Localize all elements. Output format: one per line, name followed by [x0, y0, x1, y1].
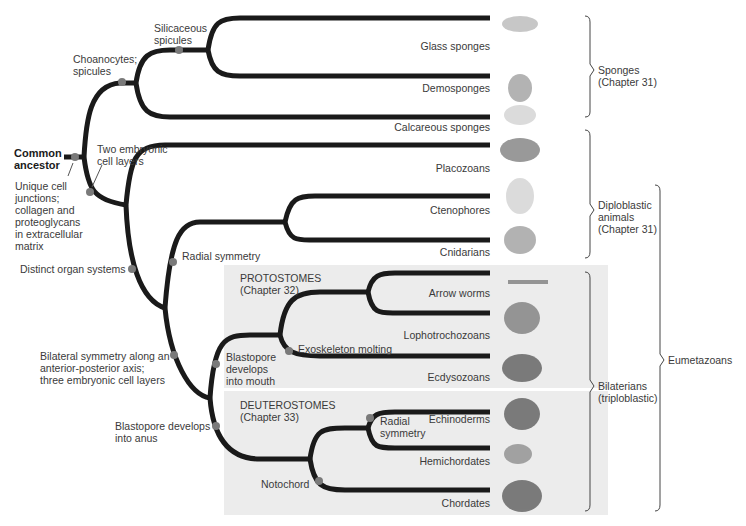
char-radial-symmetry-2: Radial symmetry — [380, 415, 426, 439]
common-ancestor-label: Common ancestor — [14, 147, 62, 171]
bracket-diploblastic: Diploblastic animals (Chapter 31) — [598, 199, 657, 235]
char-blastopore-mouth: Blastopore develops into mouth — [226, 351, 276, 387]
node-two-layers — [86, 188, 94, 196]
node-choanocytes — [118, 78, 126, 86]
taxon-placozoans: Placozoans — [436, 162, 490, 174]
char-organ-systems: Distinct organ systems — [20, 263, 126, 275]
taxon-chordates: Chordates — [442, 497, 490, 509]
node-notochord — [315, 477, 323, 485]
taxon-calcareous-sponges: Calcareous sponges — [394, 121, 490, 133]
char-unique-junctions: Unique cell junctions; collagen and prot… — [15, 180, 83, 252]
node-anus — [212, 422, 220, 430]
char-siliceous: Silicaceous spicules — [154, 22, 207, 46]
taxon-echinoderms: Echinoderms — [429, 413, 490, 425]
char-exoskeleton-molting: Exoskeleton molting — [298, 343, 392, 355]
char-blastopore-anus: Blastopore develops into anus — [115, 420, 210, 444]
node-molting — [285, 347, 293, 355]
node-organ-systems — [128, 265, 136, 273]
node-bilateral — [170, 351, 178, 359]
node-radial2 — [366, 414, 374, 422]
char-bilateral: Bilateral symmetry along an anterior-pos… — [40, 350, 170, 386]
taxon-ecdysozoans: Ecdysozoans — [428, 371, 490, 383]
bracket-eumetazoans: Eumetazoans — [668, 354, 732, 366]
taxon-arrow-worms: Arrow worms — [429, 287, 490, 299]
taxon-ctenophores: Ctenophores — [430, 204, 490, 216]
node-siliceous — [175, 46, 183, 54]
char-choanocytes: Choanocytes; spicules — [73, 53, 137, 77]
node-radial — [169, 258, 177, 266]
char-radial-symmetry: Radial symmetry — [182, 250, 260, 262]
node-root — [71, 153, 79, 161]
protostomes-header: PROTOSTOMES (Chapter 32) — [240, 272, 321, 296]
taxon-cnidarians: Cnidarians — [440, 246, 490, 258]
taxon-glass-sponges: Glass sponges — [421, 40, 490, 52]
deuterostomes-header: DEUTEROSTOMES (Chapter 33) — [240, 399, 335, 423]
bracket-sponges: Sponges (Chapter 31) — [598, 64, 657, 88]
bracket-bilaterians: Bilaterians (triploblastic) — [598, 380, 658, 404]
char-two-layers: Two embryonic cell layers — [97, 143, 168, 167]
taxon-lophotrochozoans: Lophotrochozoans — [404, 329, 490, 341]
char-notochord: Notochord — [261, 478, 309, 490]
taxon-demosponges: Demosponges — [422, 82, 490, 94]
node-mouth — [212, 360, 220, 368]
taxon-hemichordates: Hemichordates — [419, 455, 490, 467]
